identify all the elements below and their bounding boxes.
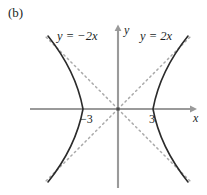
asymptote-positive-label: y = 2x (140, 30, 172, 43)
origin-point (116, 107, 120, 111)
vertex-left-label: −3 (80, 113, 93, 125)
y-axis (115, 25, 122, 189)
x-axis-label: x (193, 112, 198, 124)
x-axis (30, 105, 197, 112)
hyperbola-figure: (b) y = −2x y = 2x x y −3 3 (0, 0, 207, 195)
panel-label: (b) (8, 6, 23, 19)
y-axis-label: y (124, 24, 129, 36)
vertex-right-label: 3 (149, 113, 155, 125)
hyperbola-plot (0, 0, 207, 195)
asymptote-negative-label: y = −2x (57, 30, 97, 43)
